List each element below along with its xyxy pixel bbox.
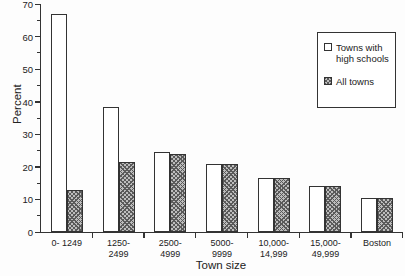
- bar-white: [258, 178, 274, 232]
- bar-group: 2500- 4999: [144, 4, 196, 232]
- y-axis-tick: [35, 232, 40, 233]
- x-axis-title: Town size: [40, 259, 402, 271]
- y-axis-tick-label: 30: [9, 130, 33, 139]
- y-axis-tick-label: 20: [9, 162, 33, 171]
- y-axis-minor-tick: [37, 52, 40, 53]
- y-axis-tick: [35, 4, 40, 5]
- y-axis-tick: [35, 36, 40, 37]
- y-axis-tick: [35, 101, 40, 102]
- bar-hatched: [222, 164, 238, 232]
- bar-white: [51, 14, 67, 232]
- plot-area: Towns with high schools All towns 010203…: [40, 4, 403, 233]
- y-axis-title: Percent: [11, 84, 23, 124]
- y-axis-tick: [35, 69, 40, 70]
- y-axis-minor-tick: [37, 20, 40, 21]
- bar-white: [206, 164, 222, 232]
- bar-group: Boston: [351, 4, 403, 232]
- bar-hatched: [274, 178, 290, 232]
- bar-group: 0- 1249: [41, 4, 93, 232]
- bar-hatched: [170, 154, 186, 232]
- bar-white: [309, 186, 325, 232]
- y-axis-tick: [35, 134, 40, 135]
- bar-group: 5000- 9999: [196, 4, 248, 232]
- bar-hatched: [67, 190, 83, 232]
- y-axis-minor-tick: [37, 215, 40, 216]
- x-axis-category-label: Boston: [338, 238, 405, 249]
- bar-group: 15,000- 49,999: [300, 4, 352, 232]
- bar-hatched: [119, 162, 135, 232]
- y-axis-tick-label: 50: [9, 65, 33, 74]
- bar-chart-figure: Towns with high schools All towns 010203…: [0, 0, 405, 276]
- y-axis-tick: [35, 166, 40, 167]
- y-axis-minor-tick: [37, 118, 40, 119]
- bar-group: 1250- 2499: [93, 4, 145, 232]
- bar-white: [361, 198, 377, 232]
- y-axis-tick-label: 0: [9, 228, 33, 237]
- y-axis-tick: [35, 199, 40, 200]
- bar-group: 10,000- 14,999: [248, 4, 300, 232]
- y-axis-minor-tick: [37, 150, 40, 151]
- y-axis-tick-label: 70: [9, 0, 33, 9]
- bar-white: [103, 107, 119, 232]
- y-axis-minor-tick: [37, 85, 40, 86]
- bar-hatched: [377, 198, 393, 232]
- y-axis-tick-label: 60: [9, 32, 33, 41]
- bar-hatched: [325, 186, 341, 232]
- y-axis-tick-label: 10: [9, 195, 33, 204]
- bar-white: [154, 152, 170, 232]
- y-axis-minor-tick: [37, 183, 40, 184]
